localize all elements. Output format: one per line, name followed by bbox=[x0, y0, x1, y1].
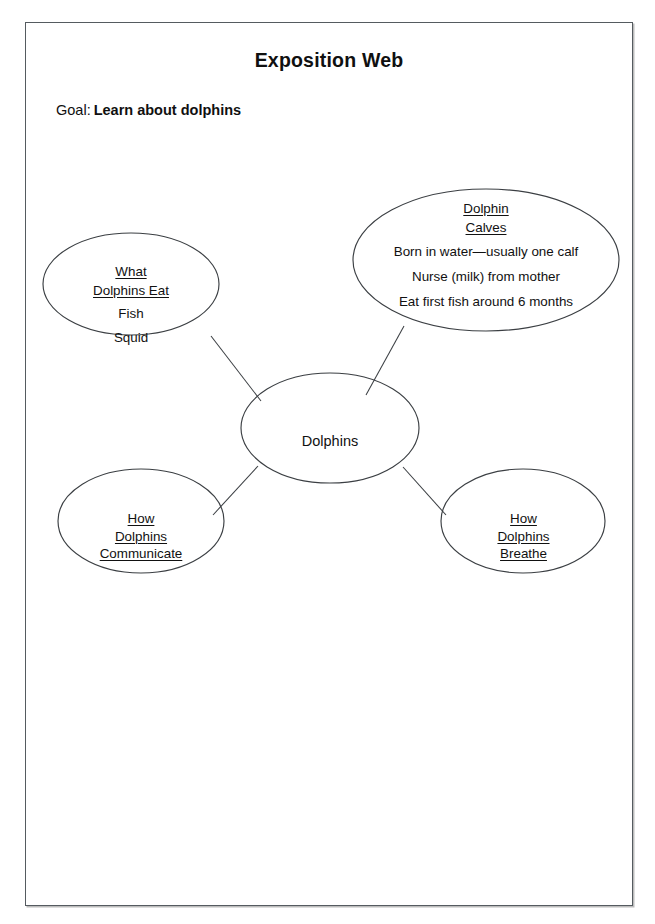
concept-web-diagram: What Dolphins Eat Fish Squid Dolphin Cal… bbox=[26, 23, 632, 905]
ellipse-dolphin-calves bbox=[353, 189, 619, 331]
connector-center-to-eat bbox=[211, 336, 261, 401]
worksheet-page: Exposition Web Goal:Learn about dolphins… bbox=[25, 22, 633, 906]
ellipse-what-dolphins-eat bbox=[43, 233, 219, 335]
ellipse-how-dolphins-communicate bbox=[58, 469, 224, 573]
ellipse-how-dolphins-breathe bbox=[441, 469, 605, 573]
ellipse-dolphins-center bbox=[241, 373, 419, 483]
connector-lines bbox=[211, 326, 446, 515]
connector-center-to-breathe bbox=[403, 467, 446, 515]
node-ellipses bbox=[43, 189, 619, 573]
connector-center-to-communicate bbox=[213, 466, 258, 515]
